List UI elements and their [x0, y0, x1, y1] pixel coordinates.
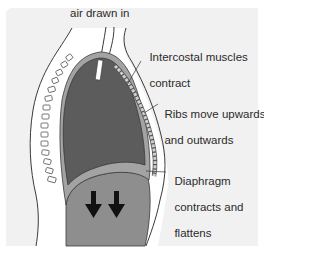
label-ribs: Ribs move upwards and outwards — [158, 95, 264, 147]
label-line: contract — [149, 77, 190, 89]
label-line: Diaphragm — [174, 175, 230, 187]
label-intercostal-muscles: Intercostal muscles contract — [143, 38, 248, 90]
label-line: Intercostal muscles — [149, 51, 247, 63]
label-line: Ribs move upwards — [164, 108, 264, 120]
label-line: contracts and — [174, 201, 243, 213]
label-air-drawn-in: air drawn in — [70, 7, 129, 20]
label-diaphragm: Diaphragm contracts and flattens — [168, 162, 243, 240]
label-line: flattens — [174, 227, 211, 239]
label-line: and outwards — [164, 134, 233, 146]
